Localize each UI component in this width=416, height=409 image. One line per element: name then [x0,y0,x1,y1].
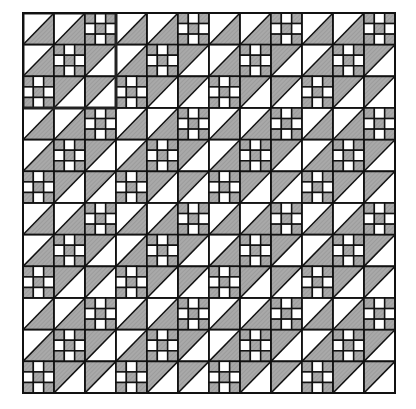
half-square-triangle-cell [116,330,147,362]
nine-patch-cell [364,298,395,330]
half-square-triangle-cell [302,203,333,235]
half-square-triangle-cell [147,361,178,393]
nine-patch-cell [302,266,333,298]
half-square-triangle-cell [23,298,54,330]
nine-patch-cell [85,13,116,45]
nine-patch-cell [23,266,54,298]
quilt-pattern-diagram [22,12,396,394]
half-square-triangle-cell [54,13,85,45]
half-square-triangle-cell [209,108,240,140]
half-square-triangle-cell [209,330,240,362]
half-square-triangle-cell [333,13,364,45]
nine-patch-cell [147,235,178,267]
nine-patch-cell [271,108,302,140]
half-square-triangle-cell [147,266,178,298]
half-square-triangle-cell [23,203,54,235]
half-square-triangle-cell [147,203,178,235]
half-square-triangle-cell [302,45,333,77]
nine-patch-cell [85,298,116,330]
nine-patch-cell [147,45,178,77]
half-square-triangle-cell [85,330,116,362]
half-square-triangle-cell [178,361,209,393]
half-square-triangle-cell [209,140,240,172]
nine-patch-cell [364,13,395,45]
nine-patch-cell [116,76,147,108]
nine-patch-cell [54,45,85,77]
half-square-triangle-cell [116,13,147,45]
nine-patch-cell [302,361,333,393]
half-square-triangle-cell [85,266,116,298]
half-square-triangle-cell [364,235,395,267]
half-square-triangle-cell [85,235,116,267]
half-square-triangle-cell [85,45,116,77]
half-square-triangle-cell [116,140,147,172]
half-square-triangle-cell [54,108,85,140]
half-square-triangle-cell [147,108,178,140]
half-square-triangle-cell [23,45,54,77]
half-square-triangle-cell [178,76,209,108]
nine-patch-cell [364,203,395,235]
half-square-triangle-cell [147,171,178,203]
half-square-triangle-cell [178,266,209,298]
half-square-triangle-cell [364,361,395,393]
half-square-triangle-cell [178,140,209,172]
half-square-triangle-cell [54,171,85,203]
half-square-triangle-cell [54,361,85,393]
nine-patch-cell [209,266,240,298]
nine-patch-cell [333,45,364,77]
half-square-triangle-cell [209,298,240,330]
half-square-triangle-cell [302,13,333,45]
nine-patch-cell [178,13,209,45]
half-square-triangle-cell [54,76,85,108]
nine-patch-cell [116,171,147,203]
half-square-triangle-cell [271,76,302,108]
half-square-triangle-cell [333,203,364,235]
nine-patch-cell [147,140,178,172]
half-square-triangle-cell [364,266,395,298]
half-square-triangle-cell [333,266,364,298]
nine-patch-cell [23,171,54,203]
half-square-triangle-cell [85,76,116,108]
half-square-triangle-cell [54,266,85,298]
nine-patch-cell [240,330,271,362]
half-square-triangle-cell [302,330,333,362]
half-square-triangle-cell [23,140,54,172]
half-square-triangle-cell [271,171,302,203]
nine-patch-cell [116,361,147,393]
nine-patch-cell [302,171,333,203]
half-square-triangle-cell [147,298,178,330]
nine-patch-cell [116,266,147,298]
half-square-triangle-cell [116,45,147,77]
half-square-triangle-cell [302,298,333,330]
nine-patch-cell [178,298,209,330]
nine-patch-cell [23,76,54,108]
half-square-triangle-cell [240,108,271,140]
half-square-triangle-cell [271,235,302,267]
half-square-triangle-cell [23,235,54,267]
half-square-triangle-cell [240,13,271,45]
half-square-triangle-cell [54,203,85,235]
nine-patch-cell [271,298,302,330]
nine-patch-cell [209,361,240,393]
half-square-triangle-cell [240,266,271,298]
half-square-triangle-cell [147,13,178,45]
half-square-triangle-cell [240,171,271,203]
half-square-triangle-cell [116,298,147,330]
half-square-triangle-cell [333,108,364,140]
nine-patch-cell [240,45,271,77]
nine-patch-cell [302,76,333,108]
nine-patch-cell [209,76,240,108]
half-square-triangle-cell [178,171,209,203]
nine-patch-cell [271,203,302,235]
half-square-triangle-cell [302,235,333,267]
half-square-triangle-cell [333,298,364,330]
half-square-triangle-cell [240,361,271,393]
half-square-triangle-cell [240,76,271,108]
nine-patch-cell [209,171,240,203]
half-square-triangle-cell [271,140,302,172]
half-square-triangle-cell [23,13,54,45]
nine-patch-cell [54,330,85,362]
nine-patch-cell [364,108,395,140]
half-square-triangle-cell [116,203,147,235]
half-square-triangle-cell [364,330,395,362]
